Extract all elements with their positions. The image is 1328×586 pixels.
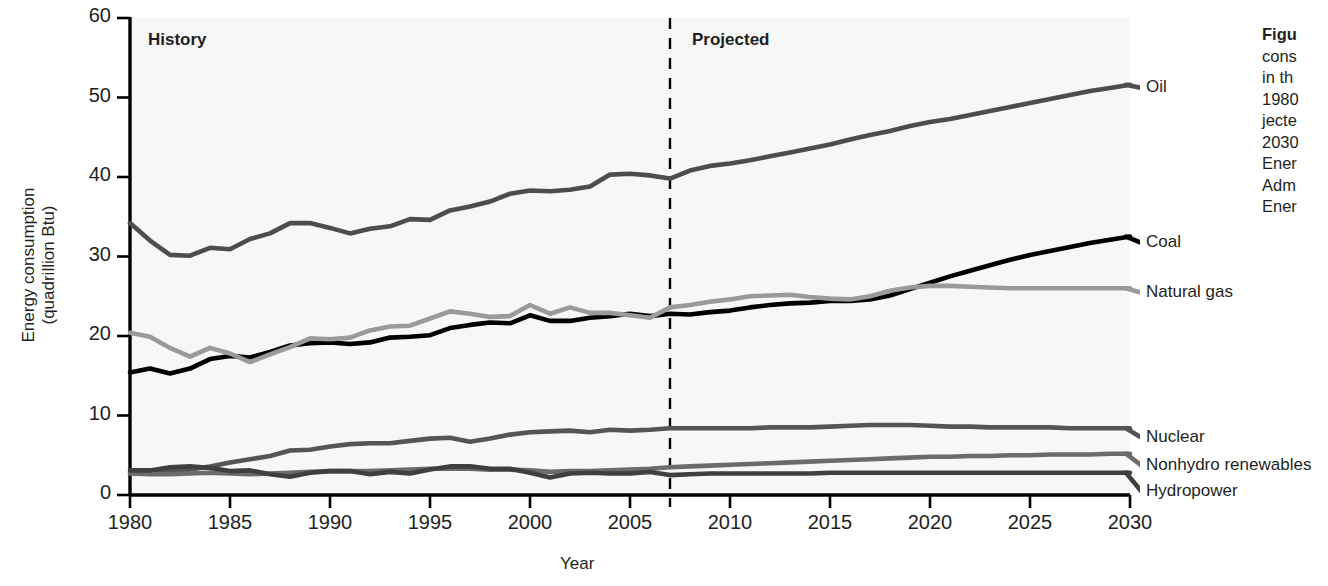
- caption-line: Adm: [1262, 175, 1328, 197]
- figure-root: Energy consumption (quadrillion Btu) Yea…: [0, 0, 1328, 586]
- y-tick-label: 60: [65, 4, 111, 27]
- leader-line: [1126, 85, 1140, 88]
- y-tick-label: 40: [65, 163, 111, 186]
- caption-line: Ener: [1262, 196, 1328, 218]
- x-tick-label: 1995: [390, 511, 470, 534]
- series-label-nuclear: Nuclear: [1146, 427, 1205, 447]
- series-label-natural-gas: Natural gas: [1146, 282, 1233, 302]
- series-label-nonhydro-renewables: Nonhydro renewables: [1146, 455, 1311, 475]
- caption-line: cons: [1262, 46, 1328, 68]
- y-tick-label: 30: [65, 243, 111, 266]
- x-tick-label: 2005: [590, 511, 670, 534]
- x-tick-label: 1990: [290, 511, 370, 534]
- series-label-oil: Oil: [1146, 77, 1167, 97]
- y-tick-label: 0: [65, 481, 111, 504]
- y-tick-label: 10: [65, 402, 111, 425]
- y-axis-title: Energy consumption (quadrillion Btu): [19, 100, 59, 430]
- caption-line: Figu: [1262, 24, 1328, 46]
- chart-plot-svg: [0, 0, 1140, 586]
- x-tick-label: 2015: [790, 511, 870, 534]
- x-tick-label: 2020: [890, 511, 970, 534]
- x-tick-label: 2030: [1090, 511, 1170, 534]
- caption-line: in th: [1262, 67, 1328, 89]
- energy-consumption-line-chart: Energy consumption (quadrillion Btu) Yea…: [0, 0, 1140, 586]
- caption-line: 2030: [1262, 132, 1328, 154]
- y-tick-label: 20: [65, 322, 111, 345]
- y-tick-label: 50: [65, 84, 111, 107]
- caption-line: Ener: [1262, 153, 1328, 175]
- x-tick-label: 2025: [990, 511, 1070, 534]
- caption-line: 1980: [1262, 89, 1328, 111]
- x-tick-label: 2010: [690, 511, 770, 534]
- figure-caption: Figuconsin th1980jecte2030EnerAdmEner: [1262, 24, 1328, 218]
- projected-label: Projected: [692, 30, 769, 50]
- series-label-hydropower: Hydropower: [1146, 481, 1238, 501]
- series-label-coal: Coal: [1146, 232, 1181, 252]
- x-tick-label: 2000: [490, 511, 570, 534]
- x-tick-label: 1985: [190, 511, 270, 534]
- caption-line: jecte: [1262, 110, 1328, 132]
- x-axis-title: Year: [560, 554, 594, 574]
- plot-background: [130, 18, 1130, 495]
- history-label: History: [148, 30, 207, 50]
- x-tick-label: 1980: [90, 511, 170, 534]
